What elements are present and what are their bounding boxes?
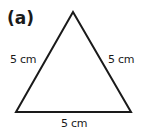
right-side-label: 5 cm <box>108 54 134 66</box>
bottom-side-label: 5 cm <box>61 118 87 130</box>
left-side-label: 5 cm <box>10 54 36 66</box>
